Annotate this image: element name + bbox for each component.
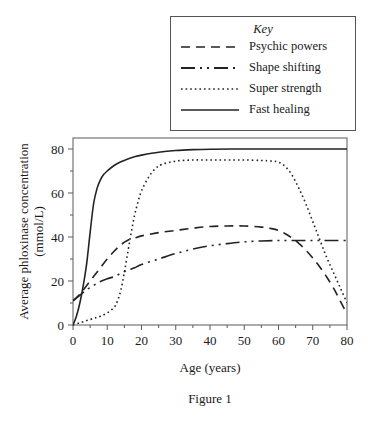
y-tick-label: 60 xyxy=(51,186,64,201)
figure-container: Key Psychic powers Shape shifting Super … xyxy=(0,0,371,421)
y-tick-label: 20 xyxy=(51,274,64,289)
x-tick-label: 70 xyxy=(306,333,319,348)
x-tick-labels: 01020304050607080 xyxy=(70,333,354,348)
chart-svg: 01020304050607080 020406080 Age (years)A… xyxy=(0,0,371,421)
x-tick-label: 60 xyxy=(272,333,285,348)
x-tick-label: 0 xyxy=(70,333,77,348)
x-axis-title: Age (years) xyxy=(180,360,241,375)
axis-titles: Age (years)Average phloxinase concentrat… xyxy=(16,143,241,406)
plot-area: 01020304050607080 020406080 Age (years)A… xyxy=(0,0,371,421)
axis-ticks xyxy=(68,149,347,330)
series-line xyxy=(73,160,347,325)
y-tick-label: 40 xyxy=(51,230,64,245)
y-tick-labels: 020406080 xyxy=(51,142,64,333)
x-tick-label: 40 xyxy=(204,333,217,348)
x-tick-label: 10 xyxy=(101,333,114,348)
series-line xyxy=(73,226,347,314)
figure-caption: Figure 1 xyxy=(188,391,232,406)
y-axis-title-line2: (mmol/L) xyxy=(31,206,46,257)
data-series-group xyxy=(73,149,347,325)
y-axis-title-line1: Average phloxinase concentration xyxy=(16,143,31,320)
x-tick-label: 30 xyxy=(169,333,182,348)
y-tick-label: 0 xyxy=(58,318,65,333)
series-line xyxy=(73,149,347,325)
x-tick-label: 50 xyxy=(238,333,251,348)
x-tick-label: 20 xyxy=(135,333,148,348)
y-axis-title: Average phloxinase concentration(mmol/L) xyxy=(16,143,46,320)
series-line xyxy=(73,240,347,300)
x-tick-label: 80 xyxy=(341,333,354,348)
y-tick-label: 80 xyxy=(51,142,64,157)
